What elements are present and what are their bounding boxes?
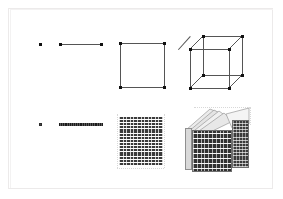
cube-sample-col (220, 131, 221, 171)
cube-sample-col (212, 131, 213, 171)
cube-depth-col (245, 121, 246, 167)
square-sample-col (123, 117, 124, 165)
figure-canvas (0, 0, 283, 199)
cube-sample-col (208, 131, 209, 171)
segment-sample-dot (102, 123, 103, 126)
segment-sample-dot (70, 123, 71, 126)
segment-sample-dot (96, 123, 97, 126)
square-sample-col (133, 117, 134, 165)
segment-sample-dot (81, 123, 82, 126)
square-sample-col (144, 117, 145, 165)
segment-sample-dot (83, 123, 84, 126)
square-sample-col (151, 117, 152, 165)
cube-depth-col (239, 121, 240, 167)
square-sampled-guide-bottom (117, 168, 164, 169)
cube-sampled-front-face (192, 130, 232, 172)
cube-depth-col (242, 121, 243, 167)
panel-cube-sampled (180, 104, 254, 174)
segment-sample-dot (78, 123, 79, 126)
square-sample-col (126, 117, 127, 165)
square-sampled-guide-left (117, 114, 118, 168)
cube-sample-gap (193, 171, 231, 172)
segment-sample-dot (59, 123, 60, 126)
segment-sample-dot (80, 123, 81, 126)
square-sample-col (119, 117, 120, 165)
cube-sample-col (193, 131, 194, 171)
square-sample-col (130, 117, 131, 165)
cube-sample-col (223, 131, 224, 171)
cube-sample-col (201, 131, 202, 171)
square-sample-col (141, 117, 142, 165)
discretised-row (0, 0, 283, 199)
segment-sample-dot (98, 123, 99, 126)
square-sample-col (137, 117, 138, 165)
square-sampled-grid (119, 117, 163, 165)
point-sampled-marker (39, 123, 42, 126)
segment-sample-dot (89, 123, 90, 126)
segment-sample-dot (76, 123, 77, 126)
segment-sample-dot (100, 123, 101, 126)
cube-sampled-left-face (185, 128, 192, 170)
segment-sample-dot (87, 123, 88, 126)
cube-sample-col (204, 131, 205, 171)
cube-depth-row (233, 167, 248, 168)
square-sample-col (155, 117, 156, 165)
square-sampled-guide-right (164, 114, 165, 168)
square-sample-col (158, 117, 159, 165)
segment-sample-dot (65, 123, 66, 126)
segment-sample-dot (72, 123, 73, 126)
cube-depth-col (236, 121, 237, 167)
segment-sample-dot (95, 123, 96, 126)
cube-depth-col (233, 121, 234, 167)
segment-sample-dot (91, 123, 92, 126)
panel-segment-sampled (56, 118, 106, 132)
cube-sample-col (197, 131, 198, 171)
segment-sample-dot (85, 123, 86, 126)
cube-sample-col (216, 131, 217, 171)
square-sample-col (148, 117, 149, 165)
panel-point-sampled (34, 118, 48, 132)
cube-sampled-right-face (232, 120, 249, 168)
cube-sample-row (193, 171, 231, 172)
square-sample-col (162, 117, 163, 165)
cube-depth-col (248, 121, 249, 167)
segment-sample-dot (63, 123, 64, 126)
segment-sample-dot (66, 123, 67, 126)
segment-sample-dot (61, 123, 62, 126)
segment-sample-dot (68, 123, 69, 126)
segment-sample-dot (93, 123, 94, 126)
cube-sample-col (227, 131, 228, 171)
segment-sample-dots (56, 118, 106, 132)
segment-sample-dot (74, 123, 75, 126)
panel-square-sampled (114, 112, 168, 170)
